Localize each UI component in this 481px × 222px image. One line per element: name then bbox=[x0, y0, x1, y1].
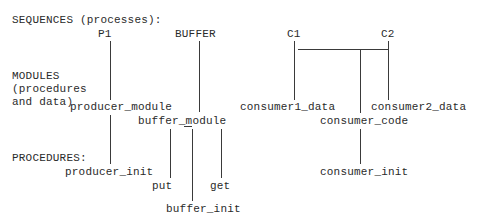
procedure-producer-init: producer_init bbox=[65, 166, 153, 178]
line-c1-to-consumer1-data bbox=[294, 41, 295, 100]
module-consumer-code: consumer_code bbox=[320, 115, 408, 127]
procedure-put: put bbox=[152, 180, 172, 192]
module-buffer: buffer_module bbox=[138, 115, 226, 127]
module-producer: producer_module bbox=[70, 101, 172, 113]
sequence-buffer: BUFFER bbox=[175, 28, 216, 40]
line-join-to-consumer-code bbox=[360, 49, 361, 113]
line-buffer-module-to-put bbox=[170, 129, 171, 178]
line-c1-c2-join bbox=[298, 49, 388, 50]
sequence-p1: P1 bbox=[98, 28, 112, 40]
line-buffer-module-to-buffer-init bbox=[192, 129, 193, 201]
line-buffer-module-to-get bbox=[221, 129, 222, 178]
procedure-buffer-init: buffer_init bbox=[166, 203, 241, 215]
line-c2-to-consumer2-data bbox=[388, 41, 389, 100]
module-consumer2-data: consumer2_data bbox=[371, 101, 466, 113]
line-buffer-module-underscore-link bbox=[184, 126, 192, 127]
sequences-heading: SEQUENCES (processes): bbox=[12, 14, 162, 26]
module-consumer1-data: consumer1_data bbox=[240, 101, 335, 113]
procedures-heading: PROCEDURES: bbox=[12, 152, 87, 164]
procedure-get: get bbox=[210, 180, 230, 192]
modules-heading-line1: MODULES bbox=[12, 70, 60, 82]
modules-heading-line2: (procedures bbox=[12, 83, 87, 95]
line-consumer-code-to-init bbox=[360, 129, 361, 164]
procedure-consumer-init: consumer_init bbox=[320, 166, 408, 178]
sequence-c2: C2 bbox=[381, 28, 395, 40]
line-p1-to-producer-module bbox=[110, 41, 111, 100]
line-producer-module-to-init bbox=[110, 115, 111, 164]
modules-heading-line3: and data) bbox=[12, 96, 73, 108]
sequence-c1: C1 bbox=[287, 28, 301, 40]
line-buffer-to-buffer-module bbox=[199, 41, 200, 112]
